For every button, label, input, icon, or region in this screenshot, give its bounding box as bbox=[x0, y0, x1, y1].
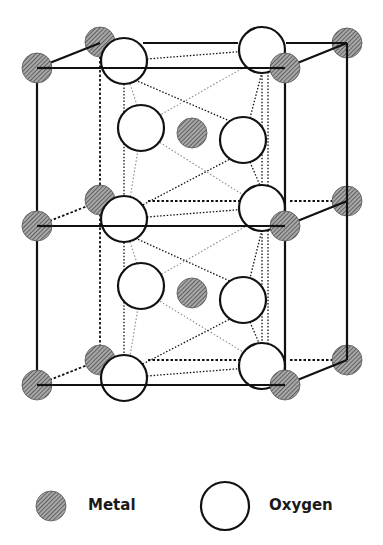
legend-metal-icon bbox=[36, 491, 66, 521]
oxygen-bottom-front-left-icon bbox=[101, 355, 147, 401]
dark-dotted-bond bbox=[250, 230, 262, 278]
metal-center-upper-icon bbox=[177, 118, 207, 148]
dark-dotted-bond bbox=[147, 368, 248, 376]
oxygen-upper-inner-left-icon bbox=[118, 105, 164, 151]
oxygen-mid-front-left-icon bbox=[101, 196, 147, 242]
oxygen-lower-inner-right-icon bbox=[220, 277, 266, 323]
solid-unit-cell-edges bbox=[37, 43, 347, 385]
dark-dotted-bond bbox=[147, 51, 248, 59]
light-dotted-bond bbox=[148, 65, 248, 122]
legend-label-metal: Metal bbox=[88, 498, 136, 513]
crystal-structure-diagram bbox=[0, 0, 383, 545]
oxygen-upper-inner-right-icon bbox=[220, 117, 266, 163]
back-atoms bbox=[85, 27, 362, 401]
dark-dotted-bond bbox=[250, 72, 262, 118]
light-dotted-bond bbox=[148, 225, 248, 282]
oxygen-lower-inner-left-icon bbox=[118, 263, 164, 309]
legend-symbols bbox=[36, 482, 249, 530]
light-dotted-bond bbox=[130, 308, 138, 356]
metal-center-lower-icon bbox=[177, 278, 207, 308]
oxygen-top-front-left-icon bbox=[101, 38, 147, 84]
light-dotted-bond bbox=[130, 150, 138, 198]
legend-label-oxygen: Oxygen bbox=[269, 498, 333, 513]
legend-oxygen-icon bbox=[201, 482, 249, 530]
dark-dotted-bond bbox=[147, 209, 248, 217]
dashed-edges bbox=[37, 43, 347, 385]
